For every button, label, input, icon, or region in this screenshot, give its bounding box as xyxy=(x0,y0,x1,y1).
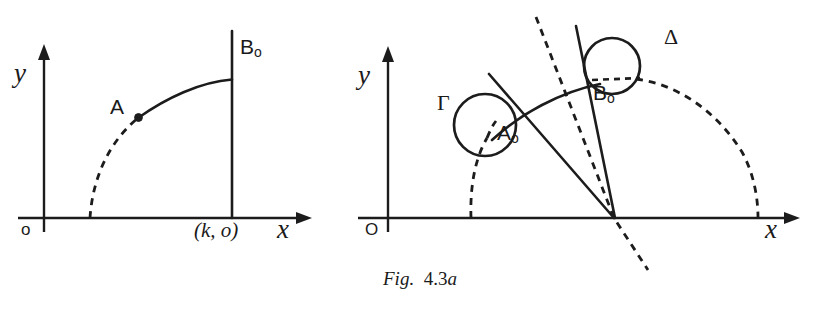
right-y-axis-arrowhead xyxy=(382,46,394,62)
left-point-b0-subscript: o xyxy=(254,44,262,60)
figure-vector-graphics xyxy=(0,0,819,310)
caption-space xyxy=(414,268,424,289)
right-diagram-group xyxy=(358,17,800,270)
left-point-b0-base: B xyxy=(240,35,254,58)
right-solid-line-through-b0 xyxy=(576,26,615,218)
left-point-b0-label: Bo xyxy=(240,36,262,59)
right-y-axis-label: y xyxy=(358,62,370,89)
caption-suffix: a xyxy=(447,268,457,289)
left-y-axis-arrowhead xyxy=(38,44,50,60)
figure-caption: Fig. 4.3a xyxy=(383,268,457,290)
right-point-b0-base: B xyxy=(593,81,607,104)
left-point-a-label: A xyxy=(110,96,124,117)
left-dashed-arc xyxy=(90,118,138,218)
right-point-a0-subscript: o xyxy=(511,130,519,146)
right-dashed-arc-near-a0 xyxy=(487,121,496,138)
right-dashed-arc-right-branch xyxy=(636,79,758,218)
right-origin-label: O xyxy=(365,221,378,238)
right-dashed-chord-in-delta xyxy=(592,78,640,80)
left-x-axis-arrowhead xyxy=(296,212,312,224)
left-x-intercept-label: (k, o) xyxy=(194,220,238,241)
left-point-a-marker xyxy=(135,114,143,122)
caption-prefix: Fig. xyxy=(383,268,414,289)
left-diagram-group xyxy=(18,31,312,232)
right-point-b0-subscript: o xyxy=(607,90,615,106)
right-x-axis-arrowhead xyxy=(784,212,800,224)
left-x-axis-label: x xyxy=(277,216,289,243)
right-circle-gamma-label: Γ xyxy=(437,92,450,114)
right-point-a0-label: Ao xyxy=(497,122,519,145)
left-solid-arc xyxy=(138,80,232,119)
right-point-a0-base: A xyxy=(497,121,511,144)
right-x-axis-label: x xyxy=(765,216,777,243)
left-origin-label: o xyxy=(21,221,30,238)
right-circle-delta-label: Δ xyxy=(664,26,678,48)
left-y-axis-label: y xyxy=(14,60,26,87)
caption-number: 4.3 xyxy=(424,268,448,289)
right-dashed-line-through-convergence xyxy=(536,17,648,270)
figure-container: y o x A Bo (k, o) y O x Γ Δ Ao Bo Fig. 4… xyxy=(0,0,819,310)
right-point-b0-label: Bo xyxy=(593,82,615,105)
right-dashed-arc-left-branch xyxy=(471,138,487,218)
